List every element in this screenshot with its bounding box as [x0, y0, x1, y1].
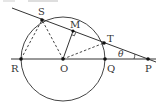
label-theta: θ	[118, 49, 124, 59]
label-q: Q	[107, 63, 115, 74]
label-r: R	[11, 63, 19, 74]
cropped-text-remnant	[28, 0, 58, 2]
label-t: T	[107, 33, 114, 44]
point-q	[103, 57, 107, 61]
dashed-segment-ot	[63, 43, 104, 59]
point-s	[40, 18, 44, 22]
geometry-diagram: S M T R O Q P θ	[0, 0, 166, 105]
cropped-text-remnant	[3, 0, 15, 2]
label-m: M	[70, 19, 80, 30]
dashed-segment-rs	[21, 20, 42, 59]
angle-arc-theta	[134, 54, 135, 59]
point-p	[146, 57, 150, 61]
point-r	[19, 57, 23, 61]
label-s: S	[38, 6, 45, 17]
segment-om	[63, 31, 73, 59]
point-t	[102, 41, 106, 45]
label-p: P	[145, 63, 152, 74]
label-o: O	[60, 63, 68, 74]
point-o	[61, 57, 65, 61]
